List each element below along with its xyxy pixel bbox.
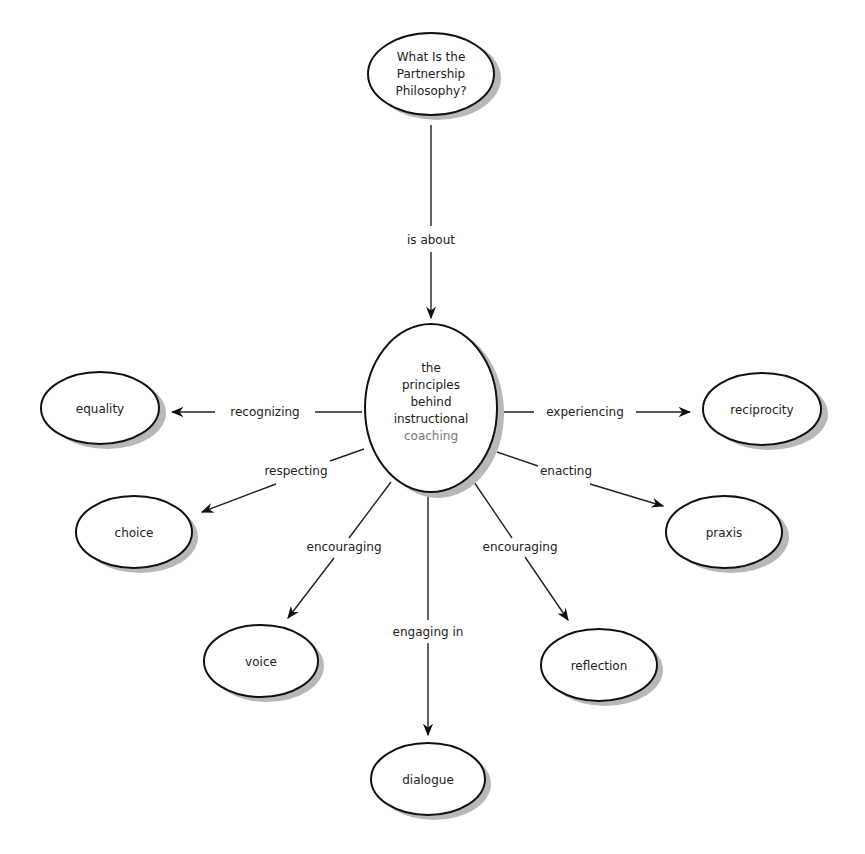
edge-label-enacting: enacting <box>540 464 592 478</box>
edge-enacting: enacting <box>497 452 663 506</box>
node-choice: choice <box>76 496 198 573</box>
edge-label-engaging-in: engaging in <box>393 625 464 639</box>
node-reflection: reflection <box>541 629 663 706</box>
choice-label: choice <box>115 526 154 540</box>
praxis-label: praxis <box>706 526 743 540</box>
center-line-5: coaching <box>404 429 458 443</box>
center-line-1: the <box>421 361 441 375</box>
center-line-3: behind <box>410 395 451 409</box>
edge-label-encouraging-voice: encouraging <box>307 540 382 554</box>
root-line-3: Philosophy? <box>395 84 466 98</box>
edge-respecting: respecting <box>202 449 364 512</box>
edge-label-experiencing: experiencing <box>546 405 624 419</box>
edge-label-is-about: is about <box>407 233 455 247</box>
reciprocity-label: reciprocity <box>730 403 793 417</box>
root-line-2: Partnership <box>397 67 465 81</box>
node-root: What Is the Partnership Philosophy? <box>368 33 501 120</box>
center-line-2: principles <box>402 378 460 392</box>
edge-recognizing: recognizing <box>172 405 362 419</box>
node-voice: voice <box>204 625 324 702</box>
reflection-label: reflection <box>571 659 628 673</box>
node-praxis: praxis <box>666 496 789 573</box>
node-dialogue: dialogue <box>371 743 491 820</box>
voice-label: voice <box>245 655 277 669</box>
edge-experiencing: experiencing <box>500 405 690 419</box>
center-line-4: instructional <box>394 412 469 426</box>
concept-map: is about recognizing experiencing respec… <box>0 0 865 854</box>
edge-label-recognizing: recognizing <box>230 405 299 419</box>
node-equality: equality <box>41 372 166 449</box>
edge-encouraging-voice: encouraging <box>288 482 391 618</box>
equality-label: equality <box>76 402 124 416</box>
node-center: the principles behind instructional coac… <box>365 324 504 498</box>
edge-engaging-in: engaging in <box>393 496 464 735</box>
node-reciprocity: reciprocity <box>703 373 828 450</box>
edge-is-about: is about <box>407 125 455 318</box>
edge-label-respecting: respecting <box>264 464 327 478</box>
dialogue-label: dialogue <box>402 773 454 787</box>
root-line-1: What Is the <box>397 50 466 64</box>
edge-label-encouraging-reflection: encouraging <box>483 540 558 554</box>
edge-encouraging-reflection: encouraging <box>474 482 568 620</box>
